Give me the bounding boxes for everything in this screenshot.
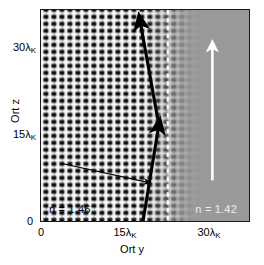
x-tick-15-main: 15λ xyxy=(113,226,131,238)
y-tick-0: 0 xyxy=(0,215,33,227)
y-axis-title-text: Ort z xyxy=(9,99,21,123)
guide-arrow-line xyxy=(62,164,148,183)
annotation-overlay xyxy=(41,10,249,221)
x-axis-title: Ort y xyxy=(100,243,164,255)
x-tick-30-sub: K xyxy=(215,231,220,240)
x-tick-30-main: 30λ xyxy=(197,226,215,238)
x-axis-title-text: Ort y xyxy=(120,243,144,255)
x-tick-0-main: 0 xyxy=(38,226,44,238)
y-tick-30: 30λK xyxy=(0,41,36,55)
y-tick-30-sub: K xyxy=(31,46,36,55)
y-tick-30-main: 30λ xyxy=(13,41,31,53)
figure-container: n = 1.46 n = 1.42 30λK 15λK 0 Ort z 0 15… xyxy=(0,0,264,265)
y-axis-title: Ort z xyxy=(9,88,21,134)
x-tick-0: 0 xyxy=(33,226,49,238)
x-tick-15-sub: K xyxy=(131,231,136,240)
ray-arrow-lower xyxy=(143,125,159,221)
x-tick-30: 30λK xyxy=(187,226,231,240)
ray-arrow-upper xyxy=(140,21,159,125)
plot-area: n = 1.46 n = 1.42 xyxy=(40,9,250,222)
y-tick-15-sub: K xyxy=(31,133,36,142)
x-tick-15: 15λK xyxy=(103,226,147,240)
